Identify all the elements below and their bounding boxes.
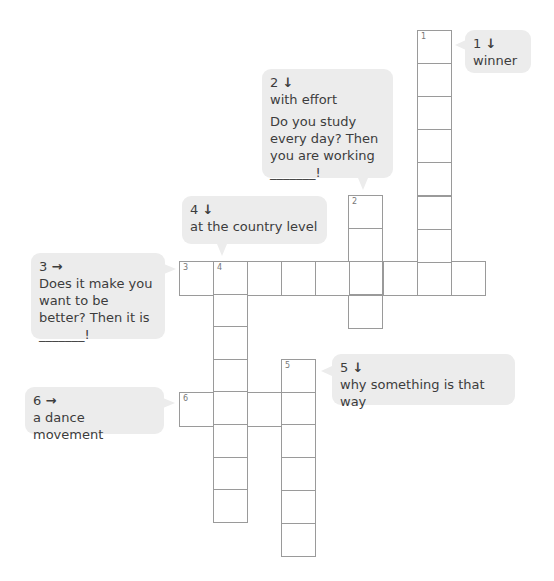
down-arrow-icon: ↓ bbox=[282, 75, 293, 90]
crossword-cell[interactable] bbox=[281, 261, 316, 296]
crossword-cell[interactable] bbox=[247, 392, 282, 427]
crossword-cell[interactable] bbox=[213, 457, 248, 491]
cell-number-6: 6 bbox=[183, 394, 188, 403]
crossword-cell[interactable]: 6 bbox=[179, 392, 214, 427]
clue-1-bubble: 1 ↓ winner bbox=[465, 30, 531, 73]
crossword-cell[interactable] bbox=[417, 262, 452, 296]
crossword-cell[interactable] bbox=[213, 359, 248, 393]
clue-2-bubble: 2 ↓ with effort Do you study every day? … bbox=[262, 69, 393, 178]
crossword-cell[interactable] bbox=[281, 523, 316, 557]
clue-3-number: 3 → bbox=[39, 258, 157, 275]
crossword-cell[interactable] bbox=[213, 391, 248, 425]
clue-4-bubble: 4 ↓ at the country level bbox=[182, 196, 327, 244]
right-arrow-icon: → bbox=[51, 259, 62, 274]
clue-2-tail bbox=[358, 178, 368, 190]
cell-number-2: 2 bbox=[352, 197, 357, 206]
clue-1-number: 1 ↓ bbox=[473, 35, 523, 52]
crossword-cell[interactable] bbox=[281, 457, 316, 491]
clue-6-tail bbox=[163, 398, 175, 408]
right-arrow-icon: → bbox=[45, 393, 56, 408]
crossword-cell[interactable] bbox=[348, 295, 383, 329]
crossword-cell[interactable] bbox=[417, 63, 452, 97]
crossword-cell[interactable]: 4 bbox=[213, 261, 248, 296]
clue-6-number: 6 → bbox=[33, 392, 156, 409]
down-arrow-icon: ↓ bbox=[352, 360, 363, 375]
crossword-cell[interactable] bbox=[417, 129, 452, 163]
clue-1-text: winner bbox=[473, 52, 523, 69]
crossword-cell[interactable] bbox=[281, 490, 316, 524]
crossword-cell[interactable] bbox=[348, 228, 383, 262]
crossword-cell[interactable] bbox=[213, 489, 248, 523]
cell-number-1: 1 bbox=[421, 32, 426, 41]
down-arrow-icon: ↓ bbox=[485, 36, 496, 51]
crossword-cell[interactable] bbox=[417, 229, 452, 263]
crossword-cell[interactable] bbox=[417, 196, 452, 230]
clue-6-bubble: 6 → a dance movement bbox=[25, 387, 164, 434]
clue-4-number: 4 ↓ bbox=[190, 201, 319, 218]
cell-number-4: 4 bbox=[217, 263, 222, 272]
clue-5-tail bbox=[321, 366, 332, 376]
clue-3-tail bbox=[164, 264, 176, 274]
crossword-cell[interactable] bbox=[451, 261, 486, 296]
crossword-cell[interactable] bbox=[281, 392, 316, 426]
crossword-cell[interactable] bbox=[213, 294, 248, 328]
clue-3-bubble: 3 → Does it make you want to be better? … bbox=[31, 253, 165, 339]
crossword-cell[interactable]: 2 bbox=[348, 195, 383, 229]
crossword-cell[interactable] bbox=[213, 326, 248, 360]
clue-5-bubble: 5 ↓ why something is that way bbox=[332, 354, 515, 405]
crossword-cell[interactable]: 5 bbox=[281, 359, 316, 393]
cell-number-5: 5 bbox=[285, 361, 290, 370]
clue-4-tail bbox=[217, 244, 227, 256]
crossword-cell[interactable]: 1 bbox=[417, 30, 452, 64]
down-arrow-icon: ↓ bbox=[202, 202, 213, 217]
crossword-cell[interactable] bbox=[417, 162, 452, 196]
clue-2-number: 2 ↓ bbox=[270, 74, 385, 91]
clue-6-text: a dance movement bbox=[33, 409, 156, 443]
clue-4-text: at the country level bbox=[190, 218, 319, 235]
crossword-cell[interactable] bbox=[247, 261, 282, 296]
clue-3-text: Does it make you want to be better? Then… bbox=[39, 275, 157, 343]
crossword-cell[interactable] bbox=[417, 96, 452, 130]
clue-5-text: why something is that way bbox=[340, 376, 507, 410]
crossword-cell[interactable] bbox=[281, 424, 316, 458]
clue-5-number: 5 ↓ bbox=[340, 359, 507, 376]
crossword-cell[interactable] bbox=[213, 424, 248, 458]
crossword-cell[interactable] bbox=[348, 261, 383, 295]
crossword-cell[interactable] bbox=[383, 261, 418, 296]
cell-number-3: 3 bbox=[183, 263, 188, 272]
crossword-cell[interactable]: 3 bbox=[179, 261, 214, 296]
clue-1-tail bbox=[455, 40, 466, 50]
clue-2-text: with effort bbox=[270, 91, 385, 108]
crossword-cell[interactable] bbox=[315, 261, 350, 296]
clue-2-example: Do you study every day? Then you are wor… bbox=[270, 113, 385, 181]
